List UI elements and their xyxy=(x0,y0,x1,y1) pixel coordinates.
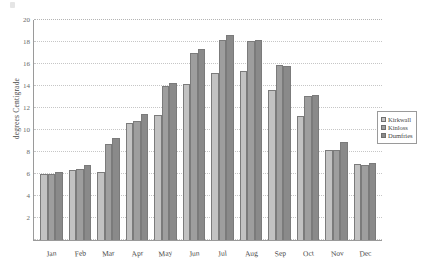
y-axis-label: degrees Centigrade xyxy=(12,49,21,169)
bar-group xyxy=(37,20,66,240)
bar xyxy=(40,174,48,240)
bar xyxy=(354,164,362,240)
x-axis-tick-label: Apr xyxy=(122,242,153,273)
bar xyxy=(162,86,170,240)
legend-swatch-icon xyxy=(381,125,386,130)
x-axis-tick-label: Feb xyxy=(65,242,96,273)
legend-item-dumfries: Dumfries xyxy=(381,132,413,139)
y-axis-tick-label: 8 xyxy=(27,148,31,156)
legend-swatch-icon xyxy=(381,117,386,122)
bar xyxy=(112,138,120,240)
bar xyxy=(211,73,219,240)
bar xyxy=(105,144,113,240)
bar xyxy=(312,95,320,240)
y-axis-tick-label: 20 xyxy=(23,16,30,24)
bar xyxy=(183,84,191,240)
bar xyxy=(190,53,198,240)
bar xyxy=(198,49,206,240)
bar xyxy=(325,150,333,240)
x-axis-tick-label: Oct xyxy=(293,242,324,273)
x-axis-tick-label: Jun xyxy=(179,242,210,273)
bar-group xyxy=(94,20,123,240)
bar xyxy=(361,165,369,240)
bar-group xyxy=(151,20,180,240)
y-axis-tick-label: 16 xyxy=(23,60,30,68)
bar xyxy=(240,71,248,240)
legend: Kirkwall Kinloss Dumfries xyxy=(377,111,417,144)
bar xyxy=(297,116,305,240)
bar xyxy=(84,165,92,240)
bar xyxy=(369,163,377,240)
legend-label: Kinloss xyxy=(388,124,408,131)
bar xyxy=(219,40,227,240)
bar xyxy=(48,174,56,240)
y-axis-tick-label: 10 xyxy=(23,126,30,134)
bar xyxy=(169,83,177,240)
bar-group xyxy=(237,20,266,240)
bar-group xyxy=(66,20,95,240)
bar xyxy=(55,172,63,240)
bar-group xyxy=(322,20,351,240)
x-axis-labels: JanFebMarAprMayJunJulAugSepOctNovDec xyxy=(33,243,382,271)
legend-item-kinloss: Kinloss xyxy=(381,124,413,131)
y-axis-tick-label: 2 xyxy=(27,214,31,222)
x-axis-tick-label: Nov xyxy=(322,242,353,273)
bar xyxy=(283,66,291,240)
bar xyxy=(340,142,348,240)
bar xyxy=(133,121,141,240)
bar xyxy=(255,40,263,240)
bar xyxy=(97,172,105,240)
bar xyxy=(304,96,312,240)
bar xyxy=(76,169,84,241)
bar xyxy=(268,90,276,240)
legend-label: Kirkwall xyxy=(388,116,411,123)
bar-group xyxy=(123,20,152,240)
bar-group xyxy=(180,20,209,240)
bar xyxy=(333,150,341,240)
legend-item-kirkwall: Kirkwall xyxy=(381,116,413,123)
y-axis-tick-label: 12 xyxy=(23,104,30,112)
bar xyxy=(276,65,284,240)
x-axis-tick-label: Jul xyxy=(208,242,239,273)
legend-swatch-icon xyxy=(381,133,386,138)
bar xyxy=(154,115,162,240)
bar xyxy=(226,35,234,240)
x-axis-tick-label: Mar xyxy=(93,242,124,273)
bar-group xyxy=(351,20,380,240)
bar xyxy=(247,41,255,240)
bar-group xyxy=(294,20,323,240)
bar-chart: degrees Centigrade 2468101214161820 JanF… xyxy=(0,0,433,274)
y-axis-tick-label: 14 xyxy=(23,82,30,90)
x-axis-tick-label: Aug xyxy=(236,242,267,273)
y-axis-tick-label: 6 xyxy=(27,170,31,178)
x-axis-tick-label: May xyxy=(150,242,181,273)
x-axis-tick-label: Sep xyxy=(265,242,296,273)
plot-area: 2468101214161820 xyxy=(33,20,382,241)
bar xyxy=(141,114,149,241)
bar xyxy=(69,170,77,240)
x-axis-tick-label: Jan xyxy=(36,242,67,273)
bar-group xyxy=(265,20,294,240)
y-axis-tick-label: 4 xyxy=(27,192,31,200)
y-axis-tick-label: 18 xyxy=(23,38,30,46)
bar xyxy=(126,123,134,240)
legend-label: Dumfries xyxy=(388,132,413,139)
bar-groups xyxy=(34,20,382,240)
bar-group xyxy=(208,20,237,240)
x-axis-tick-label: Dec xyxy=(350,242,381,273)
scan-artifact xyxy=(10,2,15,8)
